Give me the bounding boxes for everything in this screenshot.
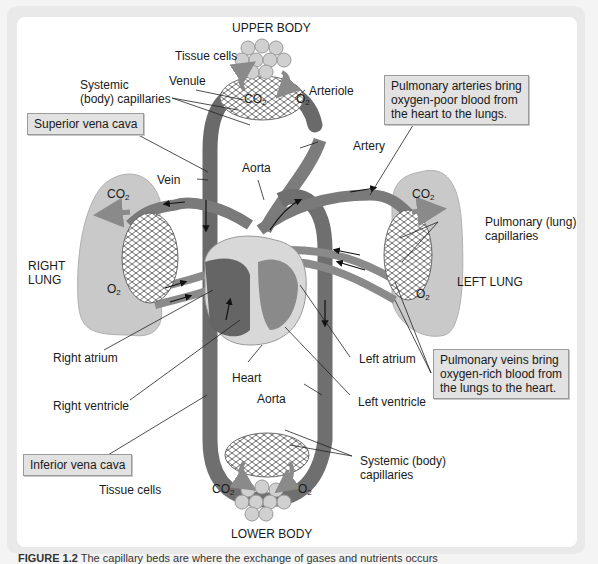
co2-upper-label: CO2 xyxy=(244,92,266,110)
systemic-capillaries-bottom-line2: capillaries xyxy=(360,468,446,482)
right-lung-label-line2: LUNG xyxy=(28,273,65,287)
tissue-cells-top-label: Tissue cells xyxy=(175,49,237,63)
co2-arrow-right-lung xyxy=(108,212,130,214)
co2-right-lung-label: CO2 xyxy=(107,187,129,205)
right-lung-capillary-bed xyxy=(122,213,178,303)
pulmonary-arteries-callout: Pulmonary arteries bring oxygen-poor blo… xyxy=(384,75,529,125)
vein-label: Vein xyxy=(157,173,180,187)
left-atrium-label: Left atrium xyxy=(359,352,416,366)
co2-text: CO xyxy=(107,187,125,201)
pulmonary-capillaries-line2: capillaries xyxy=(485,229,576,243)
lower-capillary-bed xyxy=(225,433,309,477)
co2-subscript: 2 xyxy=(430,193,434,202)
figure-caption: FIGURE 1.2 The capillary beds are where … xyxy=(18,552,438,564)
systemic-capillaries-top-line1: Systemic xyxy=(80,78,171,92)
co2-lower-label: CO2 xyxy=(212,482,234,500)
co2-subscript: 2 xyxy=(125,193,129,202)
aorta-bottom-label: Aorta xyxy=(257,392,286,406)
o2-subscript: 2 xyxy=(305,98,309,107)
co2-text: CO xyxy=(244,92,262,106)
o2-text: O xyxy=(107,282,116,296)
artery-label: Artery xyxy=(353,139,385,153)
systemic-capillaries-top-line2: (body) capillaries xyxy=(80,92,171,106)
o2-text: O xyxy=(416,287,425,301)
venule-label: Venule xyxy=(169,74,206,88)
pulmonary-veins-line3: the lungs to the heart. xyxy=(440,381,562,395)
right-lung-label: RIGHT LUNG xyxy=(28,259,65,287)
systemic-capillaries-bottom-label: Systemic (body) capillaries xyxy=(360,454,446,482)
caption-text: The capillary beds are where the exchang… xyxy=(81,552,438,564)
pulmonary-capillaries-label: Pulmonary (lung) capillaries xyxy=(485,215,576,243)
pulmonary-veins-callout: Pulmonary veins bring oxygen-rich blood … xyxy=(433,349,569,399)
lower-body-label: LOWER BODY xyxy=(231,527,312,541)
systemic-capillaries-bottom-line1: Systemic (body) xyxy=(360,454,446,468)
co2-left-lung-label: CO2 xyxy=(412,187,434,205)
systemic-capillaries-top-label: Systemic (body) capillaries xyxy=(80,78,171,106)
co2-subscript: 2 xyxy=(230,488,234,497)
heart-label: Heart xyxy=(232,371,261,385)
upper-body-label: UPPER BODY xyxy=(232,21,311,35)
pulmonary-capillaries-line1: Pulmonary (lung) xyxy=(485,215,576,229)
right-heart-chambers xyxy=(205,258,250,336)
superior-vena-cava-callout: Superior vena cava xyxy=(27,113,144,135)
left-ventricle-label: Left ventricle xyxy=(358,395,426,409)
o2-subscript: 2 xyxy=(116,288,120,297)
o2-text: O xyxy=(298,482,307,496)
pulmonary-arteries-line3: the heart to the lungs. xyxy=(391,107,522,121)
o2-right-lung-label: O2 xyxy=(107,282,121,300)
co2-text: CO xyxy=(412,187,430,201)
pulmonary-arteries-line2: oxygen-poor blood from xyxy=(391,93,522,107)
right-lung-label-line1: RIGHT xyxy=(28,259,65,273)
left-lung-label: LEFT LUNG xyxy=(457,275,523,289)
o2-lower-label: O2 xyxy=(298,482,312,500)
right-atrium-label: Right atrium xyxy=(53,351,118,365)
lower-tissue-cells xyxy=(235,480,291,521)
tissue-cells-bottom-label: Tissue cells xyxy=(99,483,161,497)
inferior-vena-cava-callout: Inferior vena cava xyxy=(23,454,132,476)
pulmonary-veins-line1: Pulmonary veins bring xyxy=(440,353,562,367)
aorta-top-label: Aorta xyxy=(242,161,271,175)
pulmonary-arteries-line1: Pulmonary arteries bring xyxy=(391,79,522,93)
o2-upper-label: O2 xyxy=(296,92,310,110)
co2-subscript: 2 xyxy=(262,98,266,107)
co2-text: CO xyxy=(212,482,230,496)
diagram-panel: UPPER BODY LOWER BODY RIGHT LUNG LEFT LU… xyxy=(17,17,577,547)
pulmonary-veins-line2: oxygen-rich blood from xyxy=(440,367,562,381)
o2-subscript: 2 xyxy=(307,488,311,497)
figure-label: FIGURE 1.2 xyxy=(18,552,78,564)
right-ventricle-label: Right ventricle xyxy=(53,399,129,413)
o2-left-lung-label: O2 xyxy=(416,287,430,305)
co2-arrow-left-lung xyxy=(412,210,432,212)
arteriole-label: Arteriole xyxy=(309,84,354,98)
o2-subscript: 2 xyxy=(425,293,429,302)
o2-text: O xyxy=(296,92,305,106)
